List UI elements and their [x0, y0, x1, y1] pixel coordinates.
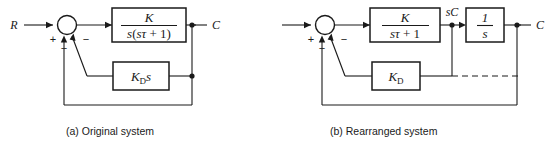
arrowhead-into-forward-block-b	[363, 22, 370, 28]
mid-signal-label-sc-b: sC	[446, 5, 460, 19]
sum-sign-minus-right-a: −	[83, 33, 89, 45]
denom-tail-a: + 1)	[146, 26, 171, 41]
arrowhead-into-forward-block-a	[105, 22, 112, 28]
arrowhead-into-sum-a	[46, 22, 53, 28]
sum-sign-minus-left-a: −	[61, 42, 67, 54]
sum-sign-plus-b: +	[308, 33, 314, 45]
kd-s-a: s	[146, 69, 151, 84]
sum-sign-minus-left-b: −	[319, 42, 325, 54]
denom-tail-b: + 1	[400, 26, 420, 41]
diagram-a-group: K s(sτ + 1) KDs R C + −	[9, 8, 221, 105]
block-diagram-figure: K s(sτ + 1) KDs R C + −	[0, 0, 552, 141]
output-label-c-a: C	[212, 18, 221, 32]
forward-block-b-denominator: sτ + 1	[390, 26, 420, 41]
diagram-canvas: K s(sτ + 1) KDs R C + −	[0, 0, 552, 141]
arrowhead-into-sum-b	[304, 22, 311, 28]
integrator-numerator-b: 1	[482, 10, 489, 25]
input-label-r-a: R	[9, 18, 18, 32]
sum-sign-plus-a: +	[50, 33, 56, 45]
summing-junction-b	[316, 16, 335, 35]
forward-block-a-numerator: K	[144, 10, 155, 25]
forward-block-a-denominator: s(sτ + 1)	[127, 26, 171, 41]
integrator-denominator-b: s	[482, 26, 487, 41]
caption-diagram-b: (b) Rearranged system	[330, 125, 437, 137]
sum-sign-minus-right-b: −	[341, 33, 347, 45]
arrowhead-into-integrator-b	[459, 22, 466, 28]
kd-sub-b: D	[397, 76, 404, 86]
diagram-b-group: K sτ + 1 1 s KD	[282, 5, 545, 105]
output-label-c-b: C	[536, 18, 545, 32]
forward-block-b-numerator: K	[400, 10, 411, 25]
summing-junction-a	[58, 16, 77, 35]
caption-diagram-a: (a) Original system	[66, 125, 154, 137]
